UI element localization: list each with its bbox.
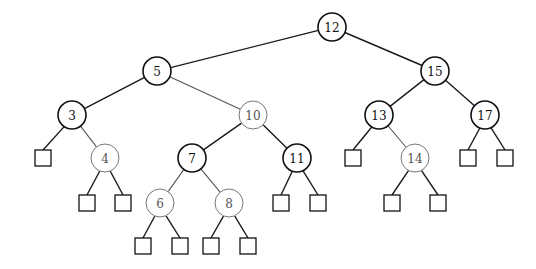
edge-n10-n11 <box>263 125 287 148</box>
edge-n11-l11R <box>303 171 318 195</box>
tree-node-3: 3 <box>58 101 86 129</box>
edge-n6-l6L <box>143 216 155 238</box>
edge-n17-l17L <box>468 128 480 150</box>
node-key-label: 3 <box>68 109 76 123</box>
nil-leaf-square-icon <box>384 195 400 211</box>
nil-leaf-square-icon <box>497 150 513 166</box>
node-key-label: 10 <box>245 109 260 123</box>
red-black-tree-diagram: 12515310131747111468 <box>0 0 536 269</box>
tree-node-13: 13 <box>365 101 393 129</box>
node-key-label: 8 <box>225 197 233 211</box>
tree-node-15: 15 <box>421 57 449 85</box>
edge-n15-n13 <box>390 80 424 107</box>
edge-n14-l14L <box>392 170 409 195</box>
nil-leaf-square-icon <box>35 150 51 166</box>
edge-n3-n4 <box>81 126 97 147</box>
node-key-label: 7 <box>188 152 196 166</box>
node-key-label: 5 <box>153 65 161 79</box>
tree-node-17: 17 <box>471 101 499 129</box>
edge-n7-n6 <box>168 169 184 191</box>
nil-leaf <box>430 195 446 211</box>
node-key-label: 11 <box>289 152 304 166</box>
edge-n11-l11L <box>281 171 292 195</box>
nil-leaf-square-icon <box>460 150 476 166</box>
edge-n12-n15 <box>345 32 422 65</box>
edge-n15-n17 <box>446 80 475 106</box>
nil-leaf-square-icon <box>430 195 446 211</box>
tree-node-14: 14 <box>401 144 429 172</box>
edge-n10-n7 <box>203 123 241 150</box>
edge-n14-l14R <box>421 170 438 195</box>
tree-node-7: 7 <box>178 144 206 172</box>
nil-leaf <box>135 238 151 254</box>
nil-leaf <box>79 195 95 211</box>
nil-leaf <box>35 150 51 166</box>
node-key-label: 4 <box>101 152 109 166</box>
edge-n7-n8 <box>201 169 220 192</box>
nil-leaf <box>203 238 219 254</box>
nil-leaf-square-icon <box>310 195 326 211</box>
tree-node-11: 11 <box>283 144 311 172</box>
nil-leaf <box>273 195 289 211</box>
nil-leaf <box>240 238 256 254</box>
edge-n12-n5 <box>171 30 319 67</box>
nil-leaf <box>310 195 326 211</box>
edge-n5-n3 <box>84 77 144 108</box>
nil-leaf <box>345 150 361 166</box>
edge-n4-l4R <box>110 171 123 195</box>
edge-n5-n10 <box>170 77 241 109</box>
nil-leaf-square-icon <box>240 238 256 254</box>
nil-leaf-square-icon <box>203 238 219 254</box>
edge-n17-l17R <box>491 128 505 150</box>
nil-leaf <box>115 195 131 211</box>
edge-n3-l3L <box>43 127 64 150</box>
node-key-label: 15 <box>427 65 442 79</box>
edge-n13-n14 <box>388 126 406 148</box>
tree-node-12: 12 <box>318 13 346 41</box>
nil-leaf-square-icon <box>115 195 131 211</box>
tree-node-6: 6 <box>146 189 174 217</box>
nil-leaf <box>460 150 476 166</box>
node-key-label: 14 <box>407 152 423 166</box>
tree-node-8: 8 <box>215 189 243 217</box>
nil-leaf <box>497 150 513 166</box>
edge-n8-l8L <box>211 216 224 238</box>
nil-leaf <box>172 238 188 254</box>
tree-node-4: 4 <box>91 144 119 172</box>
nil-leaf <box>384 195 400 211</box>
node-key-label: 13 <box>371 109 386 123</box>
node-key-label: 6 <box>156 197 164 211</box>
nil-leaf-square-icon <box>345 150 361 166</box>
node-key-label: 12 <box>324 21 339 35</box>
edge-n8-l8R <box>235 216 248 238</box>
nil-leaf-square-icon <box>135 238 151 254</box>
nil-leaf-square-icon <box>273 195 289 211</box>
tree-node-10: 10 <box>239 101 267 129</box>
edge-n4-l4L <box>87 171 100 195</box>
node-key-label: 17 <box>477 109 492 123</box>
nil-leaf-square-icon <box>172 238 188 254</box>
tree-node-5: 5 <box>143 57 171 85</box>
nil-leaf-square-icon <box>79 195 95 211</box>
edge-n6-l6R <box>166 216 180 238</box>
edge-n13-l13L <box>353 127 372 150</box>
